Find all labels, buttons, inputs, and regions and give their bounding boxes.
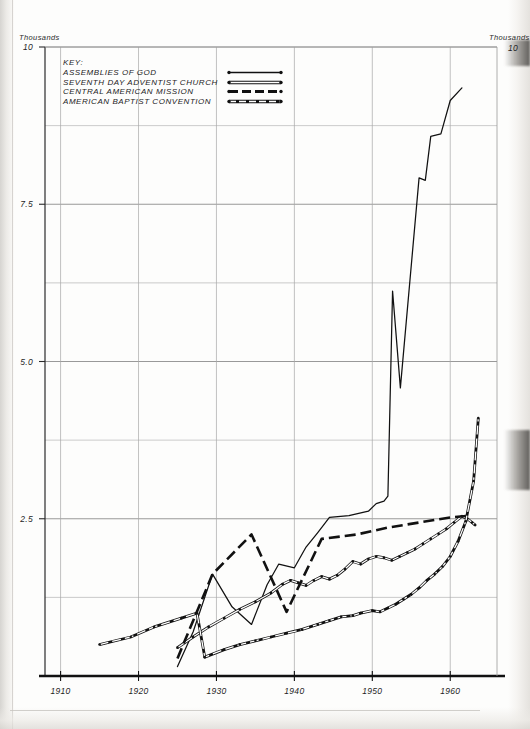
series-data-point (328, 578, 331, 581)
series-data-point (301, 628, 304, 631)
series-data-point (437, 533, 440, 536)
legend-swatch-dashdot (227, 97, 283, 106)
data-series-layer (98, 88, 479, 667)
series-data-point (383, 556, 386, 559)
series-data-point (270, 636, 273, 639)
series-data-point (441, 565, 444, 568)
series-data-point (394, 603, 397, 606)
series-data-point (477, 417, 480, 420)
series-data-point (426, 579, 429, 582)
legend-swatch-endpoint (227, 100, 230, 103)
series-data-point (387, 607, 390, 610)
series-data-point (316, 623, 319, 626)
chart-page: Thousands Thousands 107.55.02.510 191019… (0, 0, 530, 729)
series-line-dashed (177, 516, 469, 659)
data-series (176, 515, 476, 649)
series-data-point (270, 592, 273, 595)
series-data-point (406, 551, 409, 554)
series-data-point (289, 579, 292, 582)
series-data-point (352, 614, 355, 617)
series-data-point (457, 540, 460, 543)
legend-item: ASSEMBLIES OF GOD (63, 68, 283, 78)
series-data-point (402, 598, 405, 601)
x-axis-tick-label: 1950 (362, 686, 382, 696)
data-series (177, 88, 461, 667)
legend-item: AMERICAN BAPTIST CONVENTION (63, 97, 283, 107)
series-line-double-outer (177, 516, 475, 647)
x-axis-tick-label: 1920 (128, 686, 148, 696)
series-data-point (472, 480, 475, 483)
series-data-point (98, 643, 101, 646)
series-data-point (320, 575, 323, 578)
series-data-point (375, 555, 378, 558)
series-data-point (471, 521, 474, 524)
legend-swatch-dashed (227, 87, 283, 96)
series-data-point (474, 524, 477, 527)
series-data-point (192, 636, 195, 639)
legend-swatch-endpoint (227, 90, 230, 93)
x-axis-tick-label: 1910 (51, 686, 71, 696)
axis-ticks (39, 47, 450, 681)
legend-swatch-endpoint (279, 71, 282, 74)
series-data-point (207, 626, 210, 629)
chart-legend: KEY: ASSEMBLIES OF GODSEVENTH DAY ADVENT… (63, 58, 283, 106)
series-data-point (418, 587, 421, 590)
series-data-point (254, 639, 257, 642)
series-data-point (238, 608, 241, 611)
series-data-point (371, 609, 374, 612)
series-data-point (390, 559, 393, 562)
series-data-point (281, 583, 284, 586)
series-data-point (410, 593, 413, 596)
series-data-point (359, 563, 362, 566)
y-axis-tick-label: 2.5 (7, 514, 33, 524)
legend-swatch-endpoint (227, 71, 230, 74)
series-line-solid (177, 88, 461, 667)
legend-item: CENTRAL AMERICAN MISSION (63, 87, 283, 97)
data-series (177, 516, 469, 659)
chart-plot (0, 0, 530, 729)
series-data-point (429, 538, 432, 541)
legend-swatch-endpoint (279, 90, 282, 93)
series-data-point (445, 527, 448, 530)
series-data-point (305, 584, 308, 587)
series-data-point (367, 558, 370, 561)
series-data-point (129, 636, 132, 639)
x-axis-tick-label: 1960 (440, 686, 460, 696)
series-data-point (239, 643, 242, 646)
series-data-point (313, 579, 316, 582)
y-axis-tick-label: 7.5 (7, 199, 33, 209)
series-data-point (351, 560, 354, 563)
legend-title: KEY: (63, 58, 283, 67)
y-axis-tick-label: 5.0 (7, 357, 33, 367)
legend-swatch-endpoint (279, 81, 282, 84)
legend-item-label: SEVENTH DAY ADVENTIST CHURCH (63, 78, 227, 87)
series-data-point (398, 555, 401, 558)
series-data-point (153, 626, 156, 629)
legend-swatch-endpoint (279, 100, 282, 103)
series-data-point (433, 573, 436, 576)
series-data-point (465, 520, 468, 523)
series-data-point (449, 555, 452, 558)
series-data-point (254, 600, 257, 603)
x-axis-tick-label: 1930 (206, 686, 226, 696)
series-data-point (176, 646, 179, 649)
series-data-point (340, 616, 343, 619)
series-data-point (328, 619, 331, 622)
series-data-point (223, 648, 226, 651)
series-data-point (285, 632, 288, 635)
legend-swatch-double (227, 78, 283, 87)
series-line-dashdot-outer (100, 418, 479, 657)
y-axis-tick-label-right: 10 (508, 43, 518, 53)
series-line-double-inner (177, 516, 475, 647)
legend-item-label: CENTRAL AMERICAN MISSION (63, 87, 227, 96)
series-data-point (336, 574, 339, 577)
series-data-point (359, 612, 362, 615)
series-data-point (422, 543, 425, 546)
series-data-point (203, 656, 206, 659)
series-line-dashdot-inner (100, 418, 479, 657)
legend-item-label: ASSEMBLIES OF GOD (63, 68, 227, 77)
series-data-point (180, 617, 183, 620)
legend-swatch-solid (227, 68, 283, 77)
series-data-point (196, 612, 199, 615)
legend-swatch-endpoint (227, 81, 230, 84)
